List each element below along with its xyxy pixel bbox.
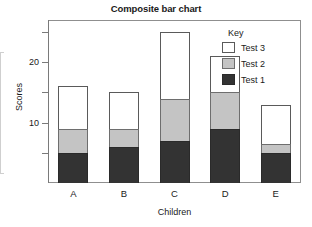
y-axis-tick <box>42 153 48 154</box>
legend-entry: Test 3 <box>222 42 294 53</box>
bar-segment <box>160 99 190 141</box>
bar-segment <box>109 147 139 183</box>
legend: Key Test 3Test 2Test 1 <box>222 28 294 90</box>
legend-entry: Test 2 <box>222 58 294 69</box>
bar-segment <box>261 105 291 144</box>
legend-swatch <box>222 74 235 85</box>
bar-segment <box>261 153 291 183</box>
bar-segment <box>58 129 88 153</box>
legend-label: Test 2 <box>241 59 265 69</box>
legend-label: Test 1 <box>241 75 265 85</box>
y-axis-tick-label: 20 <box>29 58 39 67</box>
y-axis-tick <box>42 123 48 124</box>
y-axis-tick <box>42 62 48 63</box>
legend-entries: Test 3Test 2Test 1 <box>222 42 294 85</box>
y-axis-tick <box>42 92 48 93</box>
x-axis-tick-label: C <box>160 188 190 199</box>
legend-label: Test 3 <box>241 43 265 53</box>
y-axis-line <box>48 20 49 183</box>
y-axis-tick-label: 10 <box>29 119 39 128</box>
bar-segment <box>210 92 240 128</box>
x-axis-title: Children <box>48 207 301 217</box>
bar-segment <box>58 86 88 128</box>
x-axis-tick-label: D <box>210 188 240 199</box>
legend-swatch <box>222 42 235 53</box>
bar-segment <box>210 129 240 183</box>
bar-segment <box>58 153 88 183</box>
bar-stack <box>109 92 139 183</box>
x-axis-tick-label: B <box>109 188 139 199</box>
bar-segment <box>261 144 291 153</box>
bar-stack <box>58 86 88 183</box>
page-title: Composite bar chart <box>0 3 312 14</box>
bar-segment <box>160 141 190 183</box>
x-axis-tick-label: E <box>261 188 291 199</box>
page-edge-artifact <box>0 52 4 174</box>
bar-segment <box>109 92 139 128</box>
legend-title: Key <box>228 28 294 38</box>
legend-swatch <box>222 58 235 69</box>
bar-segment <box>160 32 190 98</box>
bar-stack <box>261 105 291 183</box>
bar-segment <box>109 129 139 147</box>
bar-stack <box>160 32 190 183</box>
x-axis-tick-label: A <box>58 188 88 199</box>
y-axis-title: Scores <box>14 69 24 125</box>
y-axis-tick <box>42 32 48 33</box>
legend-entry: Test 1 <box>222 74 294 85</box>
